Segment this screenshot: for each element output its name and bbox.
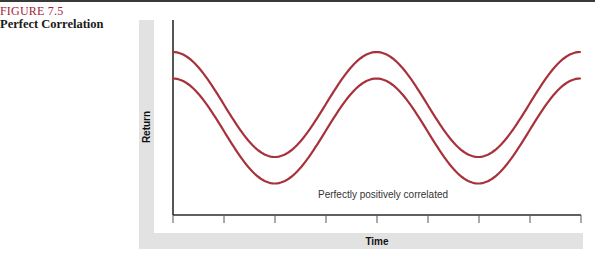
y-axis-label: Return [141, 111, 152, 143]
series-line-upper [173, 52, 580, 157]
series-line-lower [173, 79, 580, 184]
series-lines [173, 52, 580, 184]
chart-plot [0, 0, 595, 253]
x-axis-label: Time [365, 236, 388, 247]
chart-annotation: Perfectly positively correlated [318, 189, 448, 200]
